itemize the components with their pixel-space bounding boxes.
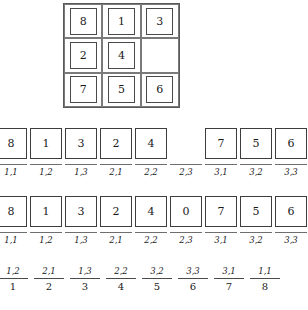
array-value: 3 [65,196,97,227]
fraction-bar [34,278,64,279]
fraction-item: 2,1 2 [31,265,67,293]
array-index-label: 1,1 [0,232,27,246]
array-value: 5 [240,196,272,227]
fraction-bar [214,278,244,279]
array-cell: 1 1,2 [29,196,63,254]
array-row-zero-encoded: 8 1,1 1 1,2 3 1,3 2 2,1 4 2,2 0 2,3 7 3,… [0,196,308,254]
array-cell: 1 1,2 [29,128,63,186]
fraction-numerator: 3,2 [139,265,175,277]
array-cell: 0 2,3 [169,196,203,254]
fraction-item: 1,2 1 [0,265,31,293]
array-cell: 5 3,2 [239,128,273,186]
array-cell: 2 2,1 [99,128,133,186]
puzzle-tile: 8 [70,8,97,35]
fraction-row: 1,2 1 2,1 2 1,3 3 2,2 4 3,2 5 3,3 6 3,1 … [0,265,308,305]
array-cell-empty: 2,3 [169,128,203,186]
fraction-numerator: 1,2 [0,265,31,277]
array-index-label: 3,3 [275,164,307,178]
fraction-numerator: 1,3 [67,265,103,277]
fraction-item: 3,3 6 [175,265,211,293]
array-value: 0 [170,196,202,227]
array-index-label: 2,3 [170,232,202,246]
array-index-label: 1,1 [0,164,27,178]
array-index-label: 1,2 [30,232,62,246]
array-value: 2 [100,196,132,227]
array-index-label: 3,1 [205,232,237,246]
array-value: 3 [65,128,97,159]
array-value: 1 [30,196,62,227]
fraction-item: 3,2 5 [139,265,175,293]
puzzle-cell: 3 [141,4,179,38]
array-row-sparse: 8 1,1 1 1,2 3 1,3 2 2,1 4 2,2 2,3 7 3,1 … [0,128,308,186]
array-cell: 3 1,3 [64,196,98,254]
fraction-denominator: 5 [139,280,175,293]
array-cell: 6 3,3 [274,196,308,254]
fraction-denominator: 1 [0,280,31,293]
fraction-denominator: 8 [247,280,283,293]
puzzle-cell: 8 [64,4,102,38]
array-value: 7 [205,196,237,227]
puzzle-tile: 4 [108,42,135,69]
array-cell: 5 3,2 [239,196,273,254]
array-value: 6 [275,128,307,159]
fraction-numerator: 2,1 [31,265,67,277]
array-index-label: 3,3 [275,232,307,246]
fraction-denominator: 2 [31,280,67,293]
array-index-label: 2,1 [100,164,132,178]
puzzle-cell-blank [141,38,179,72]
fraction-item: 3,1 7 [211,265,247,293]
fraction-item: 2,2 4 [103,265,139,293]
fraction-denominator: 3 [67,280,103,293]
fraction-bar [70,278,100,279]
array-index-label: 1,2 [30,164,62,178]
puzzle-tile: 2 [70,42,97,69]
fraction-numerator: 1,1 [247,265,283,277]
array-value: 8 [0,128,27,159]
array-value: 1 [30,128,62,159]
fraction-numerator: 3,1 [211,265,247,277]
array-value: 6 [275,196,307,227]
array-value: 7 [205,128,237,159]
array-index-label: 3,2 [240,164,272,178]
array-value: 2 [100,128,132,159]
puzzle-tile: 7 [70,76,97,103]
array-index-label: 3,2 [240,232,272,246]
array-index-label: 3,1 [205,164,237,178]
fraction-denominator: 6 [175,280,211,293]
puzzle-tile: 5 [108,76,135,103]
array-cell: 7 3,1 [204,196,238,254]
array-cell: 2 2,1 [99,196,133,254]
fraction-item: 1,1 8 [247,265,283,293]
array-value: 4 [135,128,167,159]
fraction-bar [142,278,172,279]
puzzle-cell: 6 [141,73,179,107]
array-index-label: 1,3 [65,232,97,246]
puzzle-tile: 1 [108,8,135,35]
fraction-numerator: 3,3 [175,265,211,277]
puzzle-tile-blank [146,42,173,69]
fraction-bar [250,278,280,279]
array-index-label: 2,1 [100,232,132,246]
array-cell: 4 2,2 [134,196,168,254]
array-value: 4 [135,196,167,227]
array-cell: 8 1,1 [0,196,28,254]
fraction-bar [178,278,208,279]
array-index-label: 2,2 [135,232,167,246]
fraction-numerator: 2,2 [103,265,139,277]
fraction-denominator: 4 [103,280,139,293]
array-cell: 6 3,3 [274,128,308,186]
array-index-label: 1,3 [65,164,97,178]
fraction-item: 1,3 3 [67,265,103,293]
fraction-bar [0,278,28,279]
array-cell: 7 3,1 [204,128,238,186]
puzzle-cell: 4 [102,38,140,72]
puzzle-tile: 3 [146,8,173,35]
array-cell: 4 2,2 [134,128,168,186]
puzzle-grid: 8 1 3 2 4 7 5 6 [63,3,180,108]
array-index-label: 2,3 [170,164,202,178]
fraction-denominator: 7 [211,280,247,293]
array-index-label: 2,2 [135,164,167,178]
array-cell: 8 1,1 [0,128,28,186]
puzzle-tile: 6 [146,76,173,103]
array-cell: 3 1,3 [64,128,98,186]
